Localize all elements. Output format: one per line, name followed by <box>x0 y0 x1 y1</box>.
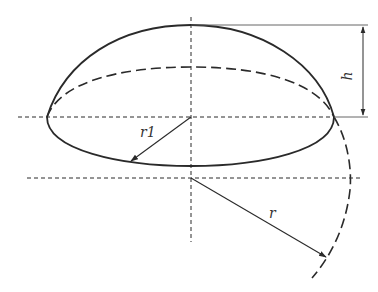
spherical-cap-diagram: h r1 r <box>0 0 378 292</box>
base-radius-label: r1 <box>140 124 156 140</box>
sphere-radius-label: r <box>269 205 277 221</box>
sphere-radius-arrow <box>191 178 326 257</box>
height-label: h <box>339 71 355 80</box>
